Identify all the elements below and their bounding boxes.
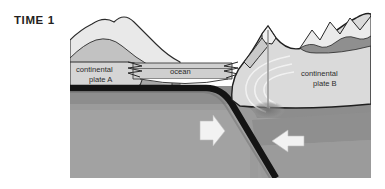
crustal-root-icon xyxy=(251,101,285,119)
cross-section-diagram: continental plate A ocean continental pl… xyxy=(0,0,385,189)
plate-b-label-line-1: continental xyxy=(301,69,338,78)
plate-a-label-line-2: plate A xyxy=(89,75,113,84)
figure-panel: TIME 1 beginning of continental collisio… xyxy=(0,0,385,189)
panel-contents: continental plate A ocean continental pl… xyxy=(70,0,371,178)
ocean-label: ocean xyxy=(170,67,191,76)
plate-b-label-line-2: plate B xyxy=(313,79,337,88)
plate-a-label-line-1: continental xyxy=(76,65,113,74)
asthenosphere-core xyxy=(70,110,250,178)
